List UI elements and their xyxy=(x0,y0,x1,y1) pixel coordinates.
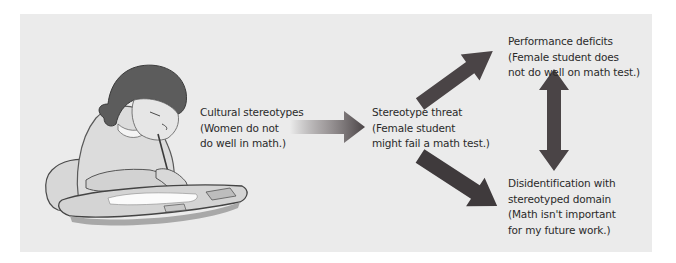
node-cultural-stereotypes: Cultural stereotypes (Women do not do we… xyxy=(200,105,304,152)
node-text: do well in math.) xyxy=(200,136,304,152)
node-text: for my future work.) xyxy=(508,223,616,239)
node-text: (Female student does xyxy=(508,50,640,66)
node-performance-deficits: Performance deficits (Female student doe… xyxy=(508,34,640,81)
node-text: (Female student xyxy=(372,121,490,137)
node-stereotype-threat: Stereotype threat (Female student might … xyxy=(372,105,490,152)
node-title: Performance deficits xyxy=(508,34,640,50)
node-text: not do well on math test.) xyxy=(508,65,640,81)
double-arrow-performance-disidentification-icon xyxy=(539,69,569,171)
node-text: (Math isn't important xyxy=(508,207,616,223)
node-text: might fail a math test.) xyxy=(372,136,490,152)
node-title: Disidentification with xyxy=(508,176,616,192)
node-text: stereotyped domain xyxy=(508,192,616,208)
node-title: Stereotype threat xyxy=(372,105,490,121)
node-title: Cultural stereotypes xyxy=(200,105,304,121)
node-disidentification: Disidentification with stereotyped domai… xyxy=(508,176,616,238)
node-text: (Women do not xyxy=(200,121,304,137)
arrow-threat-to-disidentification-icon xyxy=(411,142,507,221)
